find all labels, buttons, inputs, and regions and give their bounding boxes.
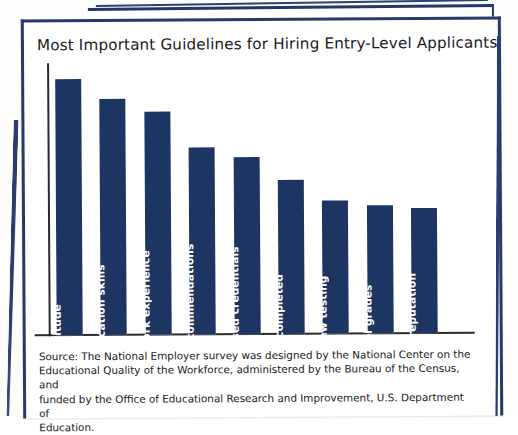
bar: Interview testing xyxy=(322,200,349,333)
bar: Industry-based credentials xyxy=(233,157,260,334)
bar: School completed xyxy=(278,180,305,334)
source-note-line: Education. xyxy=(39,418,471,435)
bar: Communication skills xyxy=(100,99,127,335)
bar: Employer recommendations xyxy=(189,147,216,334)
source-note-line: Educational Quality of the Workforce, ad… xyxy=(39,361,471,392)
bar: Attitude xyxy=(55,79,83,335)
chart-plot-area: AttitudeCommunication skillsPrevious wor… xyxy=(21,17,497,350)
bar-series: AttitudeCommunication skillsPrevious wor… xyxy=(21,17,497,350)
bar: School reputation xyxy=(411,207,438,333)
bar-label: Attitude xyxy=(44,304,70,354)
page-edge-left xyxy=(6,120,18,416)
bar: Previous work experience xyxy=(144,112,171,335)
page-content: Most Important Guidelines for Hiring Ent… xyxy=(21,17,497,416)
source-note: Source: The National Employer survey was… xyxy=(39,347,472,435)
bar: School grades xyxy=(367,205,394,333)
source-note-line: funded by the Office of Educational Rese… xyxy=(39,389,471,420)
